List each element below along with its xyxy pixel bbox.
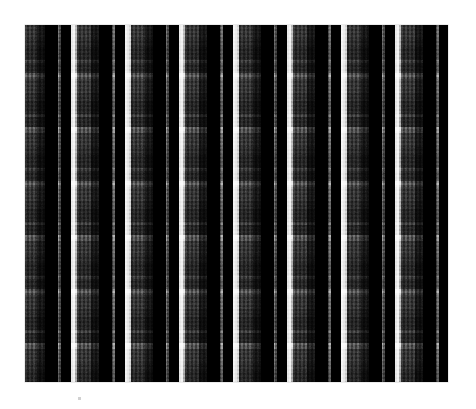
cross-shading-layer <box>25 25 448 382</box>
plaid-fabric-swatch <box>25 25 448 382</box>
image-canvas <box>0 0 476 409</box>
fabric-grain-layer <box>25 25 448 382</box>
weave-texture-layer <box>25 25 448 382</box>
warp-stripes-layer <box>25 25 448 382</box>
weft-stripes-layer <box>25 25 448 382</box>
dust-speck <box>78 397 81 400</box>
